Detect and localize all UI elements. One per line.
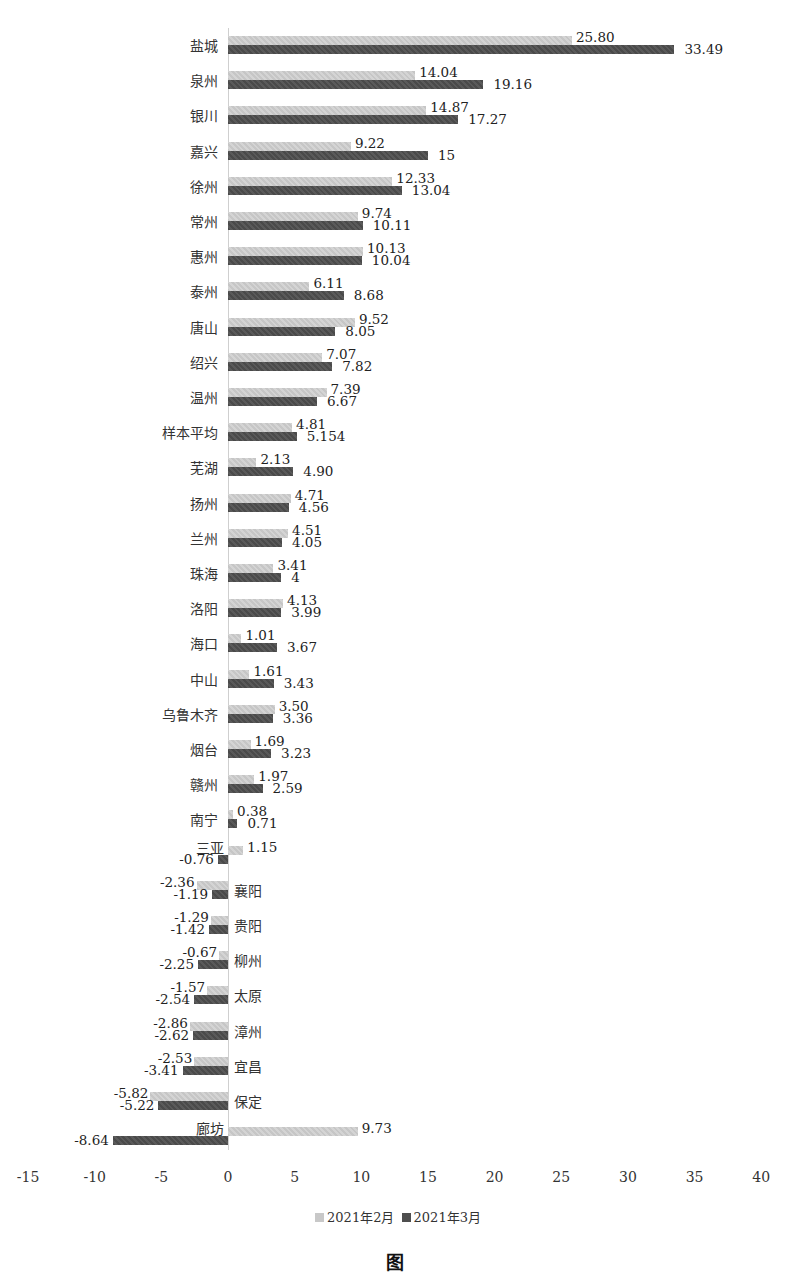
value-label-mar: 4.90 (303, 464, 333, 478)
value-label-mar: -2.25 (159, 957, 194, 971)
value-label-mar: -1.42 (170, 922, 205, 936)
value-label-mar: 6.67 (327, 394, 357, 408)
bar-mar (228, 115, 458, 124)
chart-row: -2.86-2.62漳州 (0, 1022, 793, 1060)
category-label: 贵阳 (234, 918, 262, 934)
bar-mar (228, 221, 363, 230)
bar-mar (228, 45, 674, 54)
value-label-feb: 6.11 (313, 276, 343, 290)
figure-caption: 图 (0, 1248, 793, 1274)
value-label-mar: 3.99 (291, 605, 321, 619)
bar-mar (228, 538, 282, 547)
chart-row: -0.67-2.25柳州 (0, 951, 793, 989)
value-label-feb: 9.73 (362, 1121, 392, 1135)
value-label-mar: 4.05 (292, 535, 322, 549)
bar-feb (228, 71, 415, 80)
bar-feb (228, 142, 351, 151)
value-label-mar: 4.56 (299, 500, 329, 514)
x-tick-label: -15 (17, 1169, 40, 1185)
category-label: 烟台 (190, 742, 218, 758)
value-label-mar: 3.36 (283, 711, 313, 725)
x-tick-label: 30 (619, 1169, 637, 1185)
value-label-mar: 10.04 (372, 253, 411, 267)
category-label: 宜昌 (234, 1059, 262, 1075)
value-label-mar: 10.11 (373, 218, 412, 232)
bar-mar (228, 784, 263, 793)
bar-mar (228, 327, 335, 336)
category-label: 中山 (190, 672, 218, 688)
x-tick-label: -10 (83, 1169, 106, 1185)
value-label-feb: 1.61 (253, 664, 283, 678)
bar-mar (228, 608, 281, 617)
chart-row: 4.133.99洛阳 (0, 599, 793, 637)
category-label: 柳州 (234, 953, 262, 969)
category-label: 惠州 (190, 249, 218, 265)
value-label-mar: -3.41 (144, 1063, 179, 1077)
bar-feb (228, 106, 426, 115)
x-tick-label: 20 (486, 1169, 504, 1185)
value-label-feb: 9.22 (355, 136, 385, 150)
value-label-mar: -2.54 (156, 992, 191, 1006)
x-tick-label: 35 (686, 1169, 704, 1185)
bar-mar (228, 573, 281, 582)
value-label-mar: -1.19 (174, 887, 209, 901)
value-label-mar: 13.04 (412, 183, 451, 197)
chart-row: 2.134.90芜湖 (0, 458, 793, 496)
legend-swatch-feb (315, 1213, 324, 1222)
value-label-feb: 2.13 (260, 452, 290, 466)
bar-mar (228, 819, 237, 828)
chart-row: 9.528.05唐山 (0, 318, 793, 356)
legend-label-feb: 2021年2月 (327, 1210, 394, 1225)
bar-feb (228, 670, 249, 679)
x-tick-label: 25 (552, 1169, 570, 1185)
category-label: 芜湖 (190, 460, 218, 476)
legend-swatch-mar (402, 1213, 411, 1222)
bar-mar (113, 1136, 228, 1145)
bar-mar (228, 362, 332, 371)
bar-mar (218, 855, 228, 864)
value-label-feb: 25.80 (576, 30, 615, 44)
chart-row: 25.8033.49盐城 (0, 36, 793, 74)
bar-mar (228, 503, 289, 512)
bar-feb (228, 36, 572, 45)
legend: 2021年2月 2021年3月 (0, 1207, 793, 1226)
bar-feb (228, 423, 292, 432)
bar-feb (228, 810, 233, 819)
category-label: 漳州 (234, 1024, 262, 1040)
chart-row: 3.414珠海 (0, 564, 793, 602)
bar-feb (150, 1092, 228, 1101)
x-tick-label: 10 (352, 1169, 370, 1185)
category-label: 海口 (190, 636, 218, 652)
value-label-mar: 3.23 (281, 746, 311, 760)
category-label: 样本平均 (162, 425, 218, 441)
category-label: 泰州 (190, 284, 218, 300)
chart-row: 1.972.59赣州 (0, 775, 793, 813)
chart-row: 1.613.43中山 (0, 670, 793, 708)
bar-feb (228, 282, 309, 291)
bar-feb (228, 247, 363, 256)
value-label-mar: 4 (291, 570, 300, 584)
bar-feb (228, 846, 243, 855)
bar-feb (219, 951, 228, 960)
bar-mar (212, 890, 228, 899)
bar-feb (207, 986, 228, 995)
category-label: 襄阳 (234, 883, 262, 899)
bar-feb (228, 212, 358, 221)
value-label-mar: 8.68 (354, 288, 384, 302)
category-label: 兰州 (190, 531, 218, 547)
bar-mar (158, 1101, 228, 1110)
category-label: 廊坊 (196, 1121, 224, 1137)
bar-mar (228, 714, 273, 723)
value-label-mar: 15 (438, 148, 455, 162)
chart-row: -5.82-5.22保定 (0, 1092, 793, 1130)
chart-row: 4.514.05兰州 (0, 529, 793, 567)
value-label-mar: 7.82 (342, 359, 372, 373)
bar-mar (228, 80, 483, 89)
category-label: 常州 (190, 214, 218, 230)
bar-feb (228, 529, 288, 538)
chart-row: 7.396.67温州 (0, 388, 793, 426)
bar-feb (228, 177, 392, 186)
bar-mar (183, 1066, 228, 1075)
category-label: 唐山 (190, 320, 218, 336)
category-label: 赣州 (190, 777, 218, 793)
